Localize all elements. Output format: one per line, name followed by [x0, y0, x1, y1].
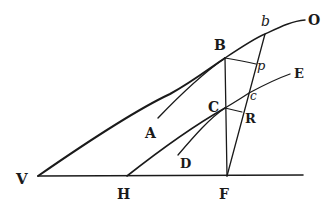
label-H: H — [117, 186, 130, 202]
baseline-line — [38, 175, 303, 176]
geometric-diagram: V H F A D B C R c p b O E — [0, 0, 331, 213]
label-A: A — [144, 125, 157, 141]
label-c: c — [250, 89, 257, 103]
label-b: b — [261, 13, 270, 29]
line-BF — [225, 58, 227, 176]
label-O: O — [308, 12, 320, 28]
line-Bp — [225, 58, 256, 64]
label-R: R — [245, 111, 256, 126]
label-D: D — [180, 156, 191, 171]
label-B: B — [214, 37, 226, 53]
label-F: F — [219, 186, 229, 202]
curve-DCE — [178, 74, 290, 155]
label-p: p — [257, 58, 266, 73]
line-CR — [225, 108, 242, 112]
curve-ABO — [158, 20, 305, 118]
label-E: E — [294, 66, 304, 81]
label-C: C — [208, 99, 219, 115]
tangent-line-VB — [38, 58, 225, 176]
line-Fb — [227, 34, 265, 176]
label-V: V — [15, 170, 28, 188]
tangent-line-HC — [127, 108, 225, 176]
